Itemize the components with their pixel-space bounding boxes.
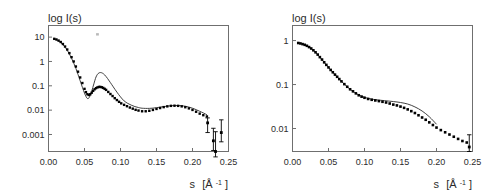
data-point [340,80,343,83]
data-point [410,110,413,113]
plot-svg-right: log I(s) 10.10.01 0.000.050.100.150.200.… [244,0,488,194]
data-point [70,56,72,58]
data-point [191,109,193,111]
x-tick-label: 0.05 [320,157,338,167]
data-point-outlier [220,131,223,134]
data-point [199,112,201,114]
y-tick-label: 1 [283,36,288,46]
data-point [346,85,349,88]
data-point [327,66,330,69]
data-point [444,131,447,134]
data-point [357,94,360,97]
x-axis-label-symbol: s [434,178,440,190]
data-point [145,110,147,112]
data-point [62,43,64,45]
data-point [107,91,109,93]
y-axis-label: log I(s) [292,12,326,24]
x-axis-label-unit-open: [Å [202,178,213,190]
data-point [57,39,59,41]
data-point [105,89,107,91]
data-point [116,99,118,101]
data-point [81,82,83,84]
x-tick-label: 0.05 [76,157,94,167]
data-point [367,98,370,101]
data-point [55,38,57,40]
model-fit-curve [54,39,207,115]
data-point [378,100,381,103]
data-point [202,114,204,116]
x-tick-label: 0.15 [148,157,166,167]
data-point [403,107,406,110]
data-point [68,52,70,54]
data-point [396,104,399,107]
x-axis-label-unit-close: ] [469,178,472,190]
data-point [440,129,443,132]
data-point [392,103,395,106]
x-axis-label: s [Å -1 ] [190,178,228,190]
data-point [85,91,87,93]
data-point [129,106,131,108]
data-point [349,88,352,91]
x-tick-group: 0.000.050.100.150.200.25 [284,148,482,167]
data-point [77,70,79,72]
data-point [73,60,75,62]
data-point [111,95,113,97]
y-tick-label: 0.01 [271,124,289,134]
plot-frame [49,26,229,152]
data-point-outlier [206,121,209,124]
data-point [314,51,317,54]
stray-mark [96,33,99,35]
data-point [170,105,172,107]
data-point [370,98,373,101]
data-point [141,110,143,112]
data-point [316,53,319,56]
x-tick-label: 0.10 [112,157,130,167]
data-point [66,48,68,50]
data-point [159,107,161,109]
data-point [323,61,326,64]
data-point [120,102,122,104]
x-axis-label-exponent: -1 [216,179,222,186]
data-point [83,88,85,90]
data-point [329,69,332,72]
data-point [385,101,388,104]
data-point [399,105,402,108]
data-point [188,107,190,109]
chart-panel-left: log I(s) 1010.10.010.001 0.000.050.100.1… [0,0,244,194]
data-point-group [53,38,208,118]
data-point [184,106,186,108]
data-point [173,105,175,107]
data-point [406,108,409,111]
y-tick-label: 0.1 [276,80,289,90]
data-point [118,101,120,103]
data-point [336,75,339,78]
data-point [206,115,208,117]
x-axis-label-unit-close: ] [225,178,228,190]
data-point [435,126,438,129]
x-axis-label-unit-open: [Å [446,178,457,190]
chart-panel-right: log I(s) 10.10.01 0.000.050.100.150.200.… [244,0,488,194]
data-point-group [297,42,468,144]
x-tick-group: 0.000.050.100.150.200.25 [40,148,238,167]
data-point [79,76,81,78]
data-point [424,118,427,121]
stray-mark-group [96,33,99,35]
y-tick-label: 1 [39,57,44,67]
x-tick-label: 0.25 [464,157,482,167]
data-point [181,105,183,107]
data-point [126,105,128,107]
data-point [452,135,455,138]
data-point [432,124,435,127]
data-point [114,97,116,99]
data-point [374,99,377,102]
data-point-outlier [214,150,217,153]
x-tick-label: 0.10 [356,157,374,167]
data-point [75,65,77,67]
data-point [163,106,165,108]
data-point-outlier [468,146,471,149]
data-point [109,93,111,95]
data-point [148,110,150,112]
data-point [421,116,424,119]
y-tick-label: 10 [34,32,44,42]
x-tick-label: 0.25 [220,157,238,167]
